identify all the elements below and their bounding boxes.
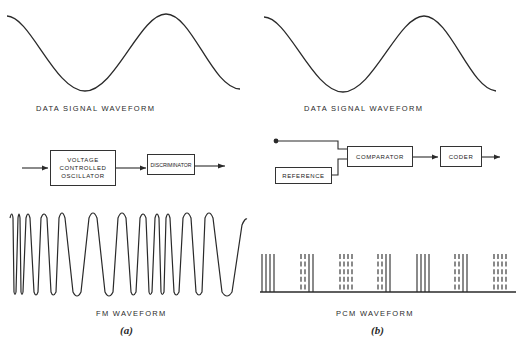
arrow-icon (432, 155, 438, 160)
data-signal-waveform (7, 14, 240, 91)
panel-a-drawing (0, 0, 258, 341)
vco-label-line2: CONTROLLED (59, 164, 106, 172)
reference-label: REFERENCE (282, 172, 324, 180)
arrow-icon (42, 166, 48, 171)
panel-a-fm: DATA SIGNAL WAVEFORM VOLTAGE CONTROLLED … (0, 0, 258, 341)
panel-b-label: (b) (371, 324, 384, 336)
data-signal-caption: DATA SIGNAL WAVEFORM (36, 104, 155, 113)
panel-b-pcm: DATA SIGNAL WAVEFORM REFERENCE COMPARATO… (258, 0, 517, 341)
discriminator-label: DISCRIMINATOR (150, 161, 191, 169)
reference-block: REFERENCE (275, 167, 332, 184)
coder-label: CODER (449, 153, 474, 161)
pcm-waveform (262, 254, 506, 292)
discriminator-block: DISCRIMINATOR (147, 154, 195, 175)
data-signal-waveform (264, 16, 496, 92)
pcm-caption: PCM WAVEFORM (336, 309, 414, 318)
vco-block: VOLTAGE CONTROLLED OSCILLATOR (50, 150, 116, 186)
comparator-label: COMPARATOR (356, 153, 404, 161)
arrow-icon (218, 164, 225, 169)
arrow-icon (494, 155, 500, 160)
comparator-block: COMPARATOR (347, 146, 413, 167)
vco-label-line1: VOLTAGE (59, 156, 106, 164)
panel-a-label: (a) (120, 324, 133, 336)
vco-label-line3: OSCILLATOR (59, 172, 106, 180)
fm-caption: FM WAVEFORM (96, 309, 167, 318)
coder-block: CODER (440, 146, 482, 167)
arrow-icon (140, 166, 146, 171)
fm-waveform (10, 213, 247, 296)
data-signal-caption: DATA SIGNAL WAVEFORM (304, 104, 423, 113)
